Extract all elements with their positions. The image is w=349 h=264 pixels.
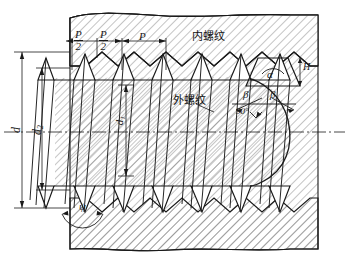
helix-angle-label: ψ	[79, 201, 86, 212]
pitch-diameter-label: d2	[31, 120, 43, 140]
right-angle-label: 90°	[236, 107, 249, 116]
pitch-half-label-2: P 2	[99, 29, 108, 52]
pitch-full-label: P	[139, 31, 146, 42]
thread-drawing-canvas: P 2 P 2 P 内螺纹 外螺纹 d d2 d1 H α β β 90° ψ	[0, 0, 349, 264]
minor-diameter-label: d1	[114, 111, 125, 131]
pitch-half-label-1: P 2	[74, 29, 83, 52]
thread-height-label: H	[303, 62, 310, 72]
flank-angle-left-label: β	[243, 89, 248, 100]
flank-angle-right-label: β	[270, 89, 275, 100]
external-thread-label: 外螺纹	[173, 95, 206, 106]
thread-angle-label: α	[267, 69, 273, 80]
internal-thread-label: 内螺纹	[192, 31, 225, 42]
major-diameter-label: d	[10, 122, 22, 138]
thread-drawing-svg	[0, 0, 349, 264]
